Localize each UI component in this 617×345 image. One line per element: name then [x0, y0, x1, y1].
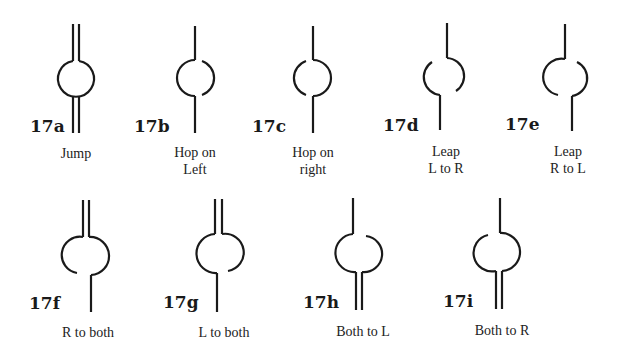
symbol-17h-both-to-l-icon	[335, 198, 382, 310]
figure-id-17e: 17e	[505, 116, 539, 133]
symbol-17d-leap-l-to-r-icon	[424, 23, 464, 130]
caption-line: Leap	[396, 143, 496, 160]
caption-17d: Leap L to R	[396, 143, 496, 177]
caption-line: R to L	[518, 160, 617, 177]
symbol-17b-hop-left-icon	[177, 26, 214, 133]
caption-line: right	[263, 161, 363, 178]
caption-17f: R to both	[38, 324, 138, 341]
caption-17b: Hop on Left	[145, 144, 245, 178]
caption-17a: Jump	[26, 145, 126, 162]
caption-line: R to both	[38, 324, 138, 341]
figure-id-17a: 17a	[30, 118, 65, 135]
caption-line: Hop on	[263, 144, 363, 161]
caption-17i: Both to R	[452, 322, 552, 339]
caption-line: Both to R	[452, 322, 552, 339]
caption-line: Left	[145, 161, 245, 178]
symbol-17i-both-to-r-icon	[474, 198, 520, 309]
caption-17e: Leap R to L	[518, 143, 617, 177]
caption-17g: L to both	[174, 324, 274, 341]
caption-line: Leap	[518, 143, 617, 160]
figure-id-17b: 17b	[134, 118, 170, 135]
symbol-17c-hop-right-icon	[294, 26, 331, 133]
footwork-symbol-diagram: 17a 17b 17c 17d 17e Jump Hop on Left Hop…	[0, 0, 617, 345]
caption-line: Jump	[26, 145, 126, 162]
caption-line: Hop on	[145, 144, 245, 161]
symbol-17g-l-to-both-icon	[196, 199, 243, 312]
figure-id-17d: 17d	[383, 117, 419, 134]
figure-id-17g: 17g	[163, 294, 199, 311]
figure-id-17h: 17h	[303, 294, 339, 311]
figure-id-17f: 17f	[29, 295, 60, 312]
figure-id-17c: 17c	[252, 118, 286, 135]
caption-line: L to both	[174, 324, 274, 341]
symbol-17e-leap-r-to-l-icon	[543, 24, 587, 131]
symbol-17f-r-to-both-icon	[62, 200, 109, 312]
figure-id-17i: 17i	[443, 293, 473, 310]
caption-line: L to R	[396, 160, 496, 177]
caption-line: Both to L	[313, 323, 413, 340]
caption-17h: Both to L	[313, 323, 413, 340]
caption-17c: Hop on right	[263, 144, 363, 178]
